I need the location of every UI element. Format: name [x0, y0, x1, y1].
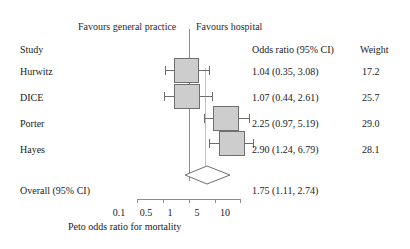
- weight-text-hurwitz: 17.2: [362, 67, 380, 77]
- ci-cap-lower: [165, 66, 166, 75]
- effect-text-porter: 2.25 (0.97, 5.19): [252, 119, 319, 129]
- overall-diamond: [183, 164, 233, 186]
- effect-text-hurwitz: 1.04 (0.35, 3.08): [252, 67, 319, 77]
- forest-plot: Favours general practice Favours hospita…: [0, 0, 410, 249]
- favours-left-label: Favours general practice: [78, 22, 176, 32]
- x-tick-label-1: 0.5: [134, 208, 158, 218]
- ci-cap-upper: [209, 66, 210, 75]
- effect-box: [174, 58, 199, 83]
- ci-cap-upper: [249, 114, 250, 123]
- x-tick-label-2: 1: [161, 208, 179, 218]
- effect-box: [213, 106, 239, 131]
- overall-label: Overall (95% CI): [20, 186, 90, 196]
- ci-cap-upper: [212, 92, 213, 101]
- ci-cap-lower: [204, 114, 205, 123]
- column-header-effect: Odds ratio (95% CI): [252, 45, 334, 55]
- x-tick-label-4: 10: [214, 208, 236, 218]
- column-header-study: Study: [20, 45, 43, 55]
- weight-text-dice: 25.7: [362, 93, 380, 103]
- x-axis-tick-2: [189, 199, 190, 203]
- study-label-hayes: Hayes: [20, 145, 45, 155]
- effect-box: [219, 131, 245, 156]
- weight-text-porter: 29.0: [362, 119, 380, 129]
- x-axis-title: Peto odds ratio for mortality: [68, 222, 181, 232]
- effect-text-dice: 1.07 (0.44, 2.61): [252, 93, 319, 103]
- overall-effect-text: 1.75 (1.11, 2.74): [252, 186, 318, 196]
- study-label-dice: DICE: [20, 93, 43, 103]
- pooled-effect-line: [205, 68, 206, 175]
- favours-right-label: Favours hospital: [196, 22, 262, 32]
- x-tick-label-3: 5: [188, 208, 206, 218]
- weight-text-hayes: 28.1: [362, 145, 380, 155]
- ci-cap-lower: [164, 92, 165, 101]
- study-label-hurwitz: Hurwitz: [20, 67, 53, 77]
- effect-box: [174, 84, 200, 109]
- column-header-weight: Weight: [360, 45, 389, 55]
- x-axis-tick-4: [240, 199, 241, 203]
- x-axis-tick-3: [215, 199, 216, 203]
- x-tick-label-0: 0.1: [107, 208, 131, 218]
- x-axis-tick-1: [163, 199, 164, 203]
- x-axis-tick-0: [137, 199, 138, 203]
- effect-text-hayes: 2.90 (1.24, 6.79): [252, 145, 319, 155]
- ci-cap-lower: [209, 139, 210, 148]
- study-label-porter: Porter: [20, 119, 44, 129]
